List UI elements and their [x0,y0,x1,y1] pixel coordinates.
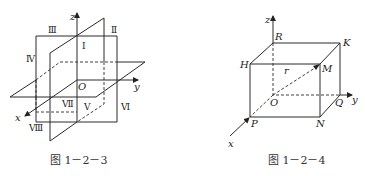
x-axis [230,118,249,136]
origin-label: O [78,81,86,92]
z-axis-label: z [69,11,76,22]
x-axis-label: x [15,112,21,123]
octant-8: Ⅷ [28,123,43,133]
z-axis-label: z [264,14,271,25]
octant-5: Ⅴ [83,102,91,112]
vector-r-label: r [284,65,290,76]
figure-box: z y x O R K H M P N Q r 图 1－2－4 [228,14,358,167]
vertex-H: H [239,59,249,70]
x-axis [25,80,77,116]
diagram-canvas: z y x O Ⅰ Ⅱ Ⅲ Ⅳ Ⅴ Ⅵ Ⅶ Ⅷ 图 1－2－3 z y x O … [0,0,365,176]
vertex-R: R [274,31,283,42]
vertex-M: M [321,63,333,74]
y-axis-label: y [133,81,140,92]
vertex-Q: Q [335,97,343,108]
vertex-N: N [315,118,326,129]
vector-r [273,66,318,95]
origin-label: O [270,97,278,108]
box-hidden-edges [250,43,340,117]
octant-2: Ⅱ [111,25,117,35]
figure-caption-2: 图 1－2－4 [268,154,326,167]
vertex-K: K [342,37,351,48]
vertex-P: P [250,118,258,129]
y-axis-label: y [351,94,358,105]
octant-3: Ⅲ [48,25,57,35]
x-axis-label: x [228,138,234,149]
octant-1: Ⅰ [82,41,86,51]
box-top-face [250,43,340,64]
figure-octants: z y x O Ⅰ Ⅱ Ⅲ Ⅳ Ⅴ Ⅵ Ⅶ Ⅷ 图 1－2－3 [10,11,145,167]
xz-plane-hidden [77,62,104,122]
vector-r-arrowhead [313,64,320,70]
figure-caption-1: 图 1－2－3 [50,154,108,167]
octant-7: Ⅶ [61,99,74,109]
octant-4: Ⅳ [26,54,36,64]
octant-6: Ⅵ [120,102,130,112]
xy-plane-left [10,80,36,97]
